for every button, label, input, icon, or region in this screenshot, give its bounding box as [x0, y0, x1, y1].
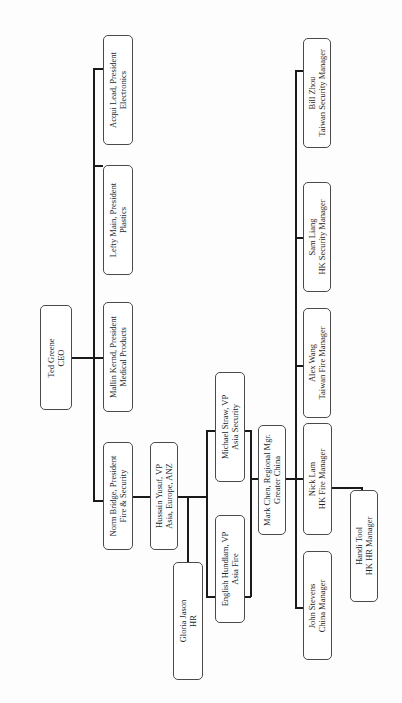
node-name: Mark Chen, Regional Mgr. [262, 434, 272, 526]
node-pres-plastics: Lefty Main, PresidentPlastics [103, 165, 133, 275]
node-title: China Manager [318, 579, 328, 632]
node-name: John Stevens [308, 583, 318, 628]
node-hk-hr-mgr: Handi ToolHK HR Manager [350, 490, 378, 602]
node-title: Plastics [118, 207, 128, 233]
connector [295, 237, 303, 239]
connector [93, 68, 103, 70]
node-ceo: Ted GreeneCEO [40, 305, 72, 410]
node-title: Asia Security [230, 404, 240, 450]
node-name: Nick Lam [308, 462, 318, 496]
connector [250, 478, 258, 480]
node-hk-security-mgr: Sam LiangHK Security Manager [303, 182, 331, 292]
node-pres-electronics: Acqui Lead, PresidentElectronics [103, 35, 133, 145]
node-title: HK Fire Manager [318, 449, 328, 509]
node-name: Handi Tool [354, 527, 364, 565]
connector [93, 357, 103, 359]
node-title: Greater China [272, 456, 282, 504]
node-pres-medical: Mallin Kernd, PresidentMedical Products [103, 302, 133, 412]
node-name: Sam Liang [307, 218, 317, 255]
node-title: HK HR Manager [364, 517, 374, 576]
connector [178, 496, 208, 498]
node-title: Taiwan Fire Manager [317, 326, 327, 399]
node-name: English Hundlam, VP [220, 532, 230, 607]
node-vp-asia-fire: English Hundlam, VPAsia Fire [215, 515, 245, 623]
connector [93, 165, 103, 167]
node-name: Ted Greene [46, 338, 56, 377]
connector [206, 596, 215, 598]
node-china-mgr: John StevensChina Manager [303, 551, 332, 660]
node-title: Asia, Europe, ANZ [164, 463, 174, 529]
node-title: CEO [56, 349, 66, 366]
connector [332, 487, 362, 489]
node-title: Taiwan Security Manager [317, 49, 327, 137]
node-name: Gloria Jason [178, 600, 188, 643]
connector [250, 430, 252, 597]
node-title: Electronics [118, 71, 128, 109]
node-title: HR [188, 615, 198, 627]
node-name: Acqui Lead, President [108, 52, 118, 128]
node-vp-asia-security: Michael Straw, VPAsia Security [215, 372, 245, 482]
connector [206, 430, 215, 432]
node-name: Lefty Main, President [108, 183, 118, 257]
connector [295, 70, 303, 72]
node-name: Norm Bridge, President [108, 456, 118, 537]
connector [72, 357, 94, 359]
connector [295, 478, 303, 480]
node-name: Bill Zhou [307, 77, 317, 110]
connector [93, 500, 103, 502]
node-regional-mgr: Mark Chen, Regional Mgr.Greater China [258, 425, 286, 535]
connector [295, 607, 303, 609]
connector [295, 70, 297, 608]
connector [295, 365, 303, 367]
node-hr: Gloria JasonHR [173, 562, 203, 680]
node-vp-asia: Hussain Yusuf, VPAsia, Europe, ANZ [150, 442, 178, 550]
node-tw-fire-mgr: Alex WangTaiwan Fire Manager [303, 308, 331, 418]
connector [93, 68, 95, 501]
node-name: Michael Straw, VP [220, 395, 230, 459]
node-pres-fire: Norm Bridge, PresidentFire & Security [103, 442, 133, 550]
connector [133, 496, 150, 498]
org-chart: Ted GreeneCEO Acqui Lead, PresidentElect… [0, 0, 402, 703]
node-title: Medical Products [118, 327, 128, 387]
node-name: Hussain Yusuf, VP [154, 464, 164, 528]
node-title: Fire & Security [118, 470, 128, 523]
connector [206, 430, 208, 597]
node-title: Asia Fire [230, 553, 240, 584]
node-hk-fire-mgr: Nick LamHK Fire Manager [303, 423, 332, 535]
node-name: Alex Wang [307, 344, 317, 382]
node-tw-security-mgr: Bill ZhouTaiwan Security Manager [303, 38, 331, 148]
connector [187, 496, 189, 562]
node-name: Mallin Kernd, President [108, 316, 118, 398]
node-title: HK Security Manager [317, 199, 327, 274]
